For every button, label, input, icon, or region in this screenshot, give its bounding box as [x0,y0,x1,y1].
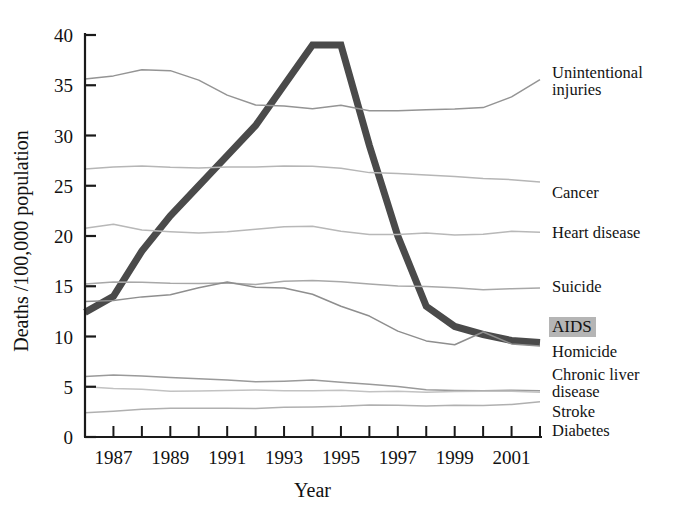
legend-item-aids: AIDS [549,317,596,337]
x-tick-label-1995: 1995 [322,447,360,468]
legend-label-unintentional-line1: Unintentional [552,64,643,81]
x-tick-label-1999: 1999 [436,447,474,468]
series-line-cancer [85,166,540,182]
y-tick-label-35: 35 [54,75,73,96]
legend-item-homicide: Homicide [552,343,617,360]
legend-item-stroke: Stroke [552,403,595,420]
y-tick-label-40: 40 [54,25,73,46]
series-line-unintentional-injuries [85,70,540,111]
y-tick-label-15: 15 [54,276,73,297]
chart-figure: 0510152025303540198719891991199319951997… [0,0,683,521]
legend-label-unintentional-line2: injuries [552,81,643,98]
y-tick-label-0: 0 [64,427,74,448]
y-tick-label-10: 10 [54,327,73,348]
legend-item-suicide: Suicide [552,278,602,295]
series-line-suicide [85,281,540,290]
y-tick-label-25: 25 [54,176,73,197]
x-tick-label-2001: 2001 [493,447,531,468]
x-tick-label-1997: 1997 [379,447,417,468]
y-tick-label-30: 30 [54,126,73,147]
legend-label-chronic-liver-line1: Chronic liver [552,366,640,383]
axis-label-layer: 0510152025303540198719891991199319951997… [10,25,531,501]
x-tick-label-1989: 1989 [151,447,189,468]
series-line-chronic-liver-disease [85,375,540,391]
legend-item-cancer: Cancer [552,184,599,201]
x-tick-label-1987: 1987 [94,447,132,468]
legend-item-unintentional-injuries: Unintentional injuries [552,64,643,99]
series-line-aids [85,45,540,342]
legend: Unintentional injuries Cancer Heart dise… [552,0,683,521]
x-tick-label-1991: 1991 [208,447,246,468]
x-tick-label-1993: 1993 [265,447,303,468]
legend-item-chronic-liver-disease: Chronic liver disease [552,366,640,401]
series-line-homicide [85,282,540,346]
y-tick-label-20: 20 [54,226,73,247]
series-line-stroke [85,387,540,393]
y-axis-title: Deaths /100,000 population [10,130,33,352]
legend-item-diabetes: Diabetes [552,422,610,439]
series-layer [85,45,540,413]
x-axis-title: Year [294,479,331,501]
legend-label-chronic-liver-line2: disease [552,383,640,400]
y-tick-label-5: 5 [64,377,74,398]
series-line-diabetes [85,402,540,413]
legend-item-heart-disease: Heart disease [552,224,640,241]
